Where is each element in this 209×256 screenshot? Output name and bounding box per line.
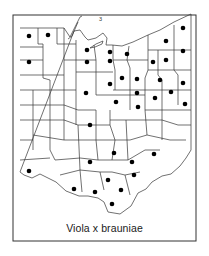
occurrence-dot bbox=[153, 96, 158, 101]
occurrence-dot bbox=[130, 160, 135, 165]
occurrence-dot bbox=[27, 60, 32, 65]
occurrence-dot bbox=[135, 91, 140, 96]
occurrence-dot bbox=[88, 160, 93, 165]
occurrence-dot bbox=[181, 81, 186, 86]
occurrence-dot bbox=[183, 102, 188, 107]
occurrence-dot bbox=[120, 76, 125, 81]
occurrence-dot bbox=[132, 173, 137, 178]
occurrence-dot bbox=[108, 59, 113, 64]
occurrence-dot bbox=[136, 105, 141, 110]
occurrence-dot bbox=[125, 52, 130, 57]
occurrence-dot bbox=[27, 169, 32, 174]
occurrence-dot bbox=[164, 58, 169, 63]
occurrence-dot bbox=[93, 190, 98, 195]
occurrence-dot bbox=[181, 26, 186, 31]
occurrence-dot bbox=[46, 33, 51, 38]
occurrence-dot bbox=[88, 123, 93, 128]
occurrence-dot bbox=[84, 91, 89, 96]
occurrence-dot bbox=[135, 77, 140, 82]
occurrence-dot bbox=[181, 49, 186, 54]
occurrence-dot bbox=[27, 34, 32, 39]
occurrence-dot bbox=[119, 188, 124, 193]
occurrence-dot bbox=[152, 152, 157, 157]
occurrence-dot bbox=[72, 187, 77, 192]
occurrence-dot bbox=[158, 78, 163, 83]
occurrence-dot bbox=[106, 178, 111, 183]
occurrence-dot bbox=[108, 50, 113, 55]
occurrence-dot bbox=[169, 90, 174, 95]
state-outline bbox=[20, 14, 191, 214]
occurrence-dot bbox=[112, 151, 117, 156]
occurrence-dot bbox=[114, 100, 119, 105]
occurrence-dot bbox=[85, 48, 90, 53]
occurrence-dot bbox=[85, 60, 90, 65]
annotation-label: 3 bbox=[99, 16, 102, 22]
map-frame bbox=[13, 15, 196, 241]
occurrence-dot bbox=[151, 60, 156, 65]
county-distribution-map: 3 bbox=[0, 0, 209, 256]
occurrence-dot bbox=[164, 39, 169, 44]
occurrence-dot bbox=[108, 82, 113, 87]
occurrence-dot bbox=[110, 202, 115, 207]
map-title: Viola x brauniae bbox=[0, 222, 209, 234]
